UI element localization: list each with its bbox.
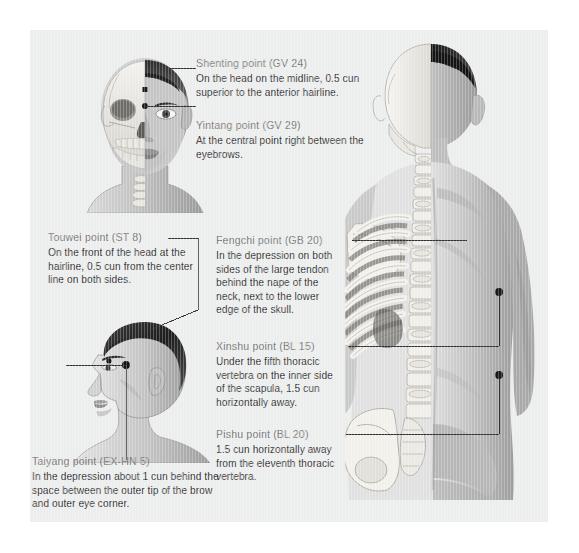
callout-xinshu-title: Xinshu point (BL 15): [216, 339, 351, 353]
callout-yintang: Yintang point (GV 29) At the central poi…: [196, 118, 411, 161]
callout-shenting: Shenting point (GV 24) On the head on th…: [196, 56, 406, 99]
xinshu-point-marker: [496, 289, 502, 295]
callout-touwei-body: On the front of the head at the hairline…: [48, 246, 208, 287]
callout-yintang-title: Yintang point (GV 29): [196, 118, 411, 132]
callout-touwei-title: Touwei point (ST 8): [48, 230, 208, 244]
figure-root: Shenting point (GV 24) On the head on th…: [0, 0, 579, 553]
callout-xinshu: Xinshu point (BL 15) Under the fifth tho…: [216, 339, 351, 409]
callout-fengchi: Fengchi point (GB 20) In the depression …: [216, 233, 346, 317]
callout-xinshu-body: Under the fifth thoracic vertebra on the…: [216, 355, 351, 409]
callout-shenting-title: Shenting point (GV 24): [196, 56, 406, 70]
callout-pishu-title: Pishu point (BL 20): [216, 427, 356, 441]
callout-shenting-body: On the head on the midline, 0.5 cun supe…: [196, 72, 406, 99]
callout-yintang-body: At the central point right between the e…: [196, 134, 411, 161]
pishu-point-marker: [496, 372, 502, 378]
callout-fengchi-body: In the depression on both sides of the l…: [216, 249, 346, 317]
callout-pishu-body: 1.5 cun horizontally away from the eleve…: [216, 443, 356, 484]
callout-pishu: Pishu point (BL 20) 1.5 cun horizontally…: [216, 427, 356, 484]
illustration-panel: Shenting point (GV 24) On the head on th…: [30, 30, 548, 522]
callout-fengchi-title: Fengchi point (GB 20): [216, 233, 346, 247]
callout-touwei: Touwei point (ST 8) On the front of the …: [48, 230, 208, 287]
